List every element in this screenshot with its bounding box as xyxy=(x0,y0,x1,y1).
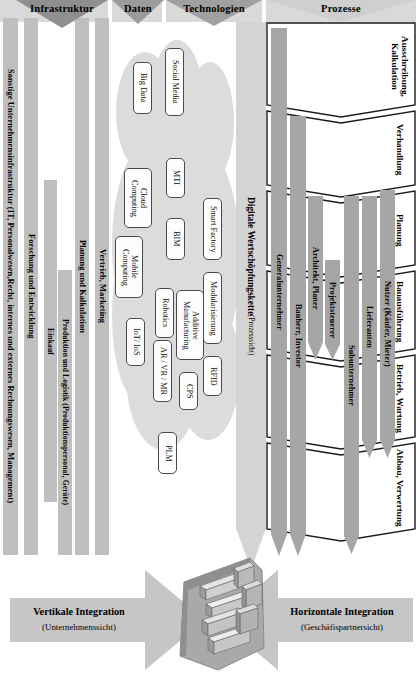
stakeholder-label: Projektsteuerer xyxy=(325,260,340,360)
stakeholder-arrow-lieferanten[interactable]: Lieferanten xyxy=(362,196,377,458)
technology-chip-label: Smart Factory xyxy=(204,199,221,259)
technology-chip-rfid[interactable]: RFID xyxy=(203,356,222,396)
stakeholder-arrow-projektsteuerer[interactable]: Projektsteuerer xyxy=(325,260,340,360)
technology-chip-label: AR / VR / MR xyxy=(154,341,171,401)
process-stage-label: Verhandlung xyxy=(384,110,414,190)
infrastructure-bar-einkauf: Einkauf xyxy=(44,180,57,502)
horizontal-integration-title: Horizontale Integration xyxy=(268,606,416,617)
technology-chip-cps[interactable]: CPS xyxy=(179,372,198,410)
technology-chip-bim[interactable]: BIM xyxy=(166,218,185,260)
value-chain-bar-label: Planung und Kalkulation xyxy=(75,18,89,555)
technology-chip-label: Mobile Computing xyxy=(116,237,142,297)
infrastructure-bar-label: Forschung und Entwicklung xyxy=(24,18,38,555)
stakeholder-label: Architekt, Planer xyxy=(308,196,323,360)
technology-chip-big-data[interactable]: Big Data xyxy=(133,62,152,114)
technology-chip-label: BIM xyxy=(167,219,184,259)
stakeholder-arrow-nutzer[interactable]: Nutzer (Käufer, Mieter) xyxy=(380,190,395,458)
stakeholder-label-wrap: Bauherr, Investor xyxy=(290,116,306,556)
stakeholder-label-wrap: Subunternehmer xyxy=(344,196,359,554)
stakeholder-label: Bauherr, Investor xyxy=(290,116,306,556)
process-stage-label-wrap: Ausschreibung, Kalkulation xyxy=(384,22,414,110)
technology-chip-additive-manufacturing[interactable]: Additive Manufacturing xyxy=(176,290,204,360)
infrastructure-bar-forschung: Forschung und Entwicklung xyxy=(24,18,38,555)
stakeholder-label-wrap: Lieferanten xyxy=(362,196,377,458)
technology-chip-label: Cloud Computing xyxy=(125,169,151,227)
stakeholder-label-wrap: Nutzer (Käufer, Mieter) xyxy=(380,190,395,458)
technology-chip-label: Additive Manufacturing xyxy=(177,291,203,359)
process-stage-verhandlung[interactable]: Verhandlung xyxy=(266,110,416,190)
value-chain-bar-label: Vertrieb, Marketing xyxy=(95,18,109,555)
technology-chip-label: Modularisierung xyxy=(204,273,221,343)
infrastructure-bar-label: Einkauf xyxy=(44,180,57,502)
digital-value-chain-title: Digitale Wertschöpfungskette xyxy=(246,197,256,315)
technology-chip-social-media[interactable]: Social Media xyxy=(165,48,184,116)
digital-value-chain-subtitle: (Prozesssicht) xyxy=(247,315,255,355)
value-chain-bar-label: Produktion und Logistik (Produktionspers… xyxy=(58,270,72,555)
technology-chip-label: CPS xyxy=(180,373,197,409)
technology-chip-robotics[interactable]: Robotics xyxy=(155,288,174,338)
stakeholder-arrow-architekt-planer[interactable]: Architekt, Planer xyxy=(308,196,323,360)
infrastructure-bar-label: Sonstige Unternehmensinfrastruktur (IT, … xyxy=(3,18,18,555)
technology-chip-mti[interactable]: MTI xyxy=(166,158,185,198)
value-chain-bar-planung: Planung und Kalkulation xyxy=(75,18,89,555)
technology-chip-label: IoT/ IoS xyxy=(127,319,144,365)
stakeholder-label-wrap: Architekt, Planer xyxy=(308,196,323,360)
technology-chip-label: PLM xyxy=(159,433,176,473)
header-label-infrastruktur: Infrastruktur xyxy=(16,0,108,18)
technology-chip-label: MTI xyxy=(167,159,184,197)
technology-chip-modularisierung[interactable]: Modularisierung xyxy=(203,272,222,344)
stakeholder-arrow-subunternehmer[interactable]: Subunternehmer xyxy=(344,196,359,554)
stakeholder-label-wrap: Generalunternehmer xyxy=(271,28,287,556)
horizontal-integration-subtitle: (Geschäfispartnersicht) xyxy=(268,622,416,632)
stakeholder-label: Lieferanten xyxy=(362,196,377,458)
technology-chip-cloud-computing[interactable]: Cloud Computing xyxy=(124,168,152,228)
vertical-integration-subtitle: (Unternehmenssicht) xyxy=(4,622,154,632)
digital-value-chain-text: Digitale Wertschöpfungskette (Prozesssic… xyxy=(236,22,266,530)
stakeholder-label-wrap: Projektsteuerer xyxy=(325,260,340,360)
technology-chip-label: RFID xyxy=(204,357,221,395)
technology-chip-plm[interactable]: PLM xyxy=(158,432,177,474)
technology-chip-mobile-computing[interactable]: Mobile Computing xyxy=(115,236,143,298)
technology-chip-label: Big Data xyxy=(134,63,151,113)
process-stage-label-wrap: Verhandlung xyxy=(384,110,414,190)
diagram-canvas: Infrastruktur Daten Technologien Prozess… xyxy=(0,0,416,675)
header-label-prozesse: Prozesse xyxy=(266,0,416,18)
stakeholder-arrow-bauherr-investor[interactable]: Bauherr, Investor xyxy=(290,116,306,556)
isometric-city-icon xyxy=(172,552,267,672)
infrastructure-bar-sonstige: Sonstige Unternehmensinfrastruktur (IT, … xyxy=(3,18,18,555)
stakeholder-label: Nutzer (Käufer, Mieter) xyxy=(380,190,395,458)
value-chain-bar-vertrieb: Vertrieb, Marketing xyxy=(95,18,109,555)
technology-chip-label: Robotics xyxy=(156,289,173,337)
header-label-daten: Daten xyxy=(112,0,164,18)
technology-chip-label: Social Media xyxy=(166,49,183,115)
technology-chip-ar-vr-mr[interactable]: AR / VR / MR xyxy=(153,340,172,402)
stakeholder-label: Generalunternehmer xyxy=(271,28,287,556)
stakeholder-label: Subunternehmer xyxy=(344,196,359,554)
technology-chip-iot-ios[interactable]: IoT/ IoS xyxy=(126,318,145,366)
process-stage-ausschreibung[interactable]: Ausschreibung, Kalkulation xyxy=(266,22,416,110)
value-chain-bar-produktion: Produktion und Logistik (Produktionspers… xyxy=(58,270,72,555)
process-stage-label: Ausschreibung, Kalkulation xyxy=(384,22,414,110)
stakeholder-arrow-generalunternehmer[interactable]: Generalunternehmer xyxy=(271,28,287,556)
technology-chip-smart-factory[interactable]: Smart Factory xyxy=(203,198,222,260)
vertical-integration-title: Vertikale Integration xyxy=(4,606,154,617)
header-label-technologien: Technologien xyxy=(166,0,262,18)
digital-value-chain-band: Digitale Wertschöpfungskette (Prozesssic… xyxy=(236,22,266,530)
